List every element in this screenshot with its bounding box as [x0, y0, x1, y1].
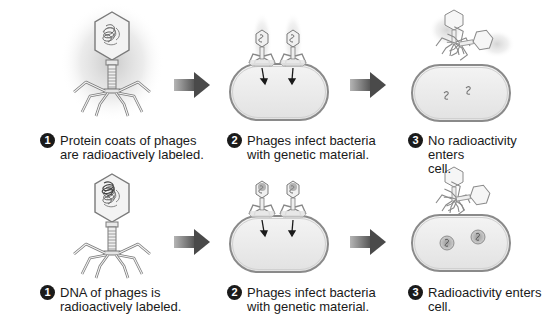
row-1-protein-labeling — [60, 2, 515, 122]
caption-row2-step2: 2 Phages infect bacteria with genetic ma… — [227, 286, 376, 314]
caption-line: with genetic material. — [247, 300, 376, 314]
arrow-icon — [350, 72, 386, 98]
caption-line: cell. — [428, 300, 541, 314]
caption-line: radioactively labeled. — [60, 300, 181, 314]
result-bacterium — [412, 10, 515, 121]
row-2-dna-labeling — [74, 167, 510, 278]
caption-line: with genetic material. — [247, 148, 376, 162]
step-number-badge: 3 — [408, 133, 423, 148]
caption-row1-step3: 3 No radioactivity enters cell. — [408, 134, 554, 176]
infection-bacterium — [230, 12, 328, 120]
step-number-badge: 1 — [40, 285, 55, 300]
caption-row2-step1: 1 DNA of phages is radioactively labeled… — [40, 286, 181, 314]
step-number-badge: 3 — [408, 285, 423, 300]
infection-bacterium — [230, 181, 328, 272]
radioactive-protein-phage — [60, 2, 164, 122]
step-number-badge: 2 — [227, 285, 242, 300]
caption-line: Phages infect bacteria — [247, 286, 376, 300]
step-number-badge: 1 — [40, 133, 55, 148]
caption-row2-step3: 3 Radioactivity enters cell. — [408, 286, 541, 314]
arrow-icon — [174, 229, 210, 255]
caption-line: Radioactivity enters — [428, 286, 541, 300]
caption-line: are radioactively labeled. — [60, 148, 204, 162]
result-bacterium — [412, 167, 510, 271]
caption-line: No radioactivity enters — [428, 134, 554, 162]
step-number-badge: 2 — [227, 133, 242, 148]
caption-line: cell. — [428, 162, 554, 176]
radioactive-dna-phage — [74, 174, 150, 278]
caption-row1-step2: 2 Phages infect bacteria with genetic ma… — [227, 134, 376, 162]
arrow-icon — [174, 72, 210, 98]
caption-line: Protein coats of phages — [60, 134, 204, 148]
caption-row1-step1: 1 Protein coats of phages are radioactiv… — [40, 134, 204, 162]
caption-line: DNA of phages is — [60, 286, 181, 300]
caption-line: Phages infect bacteria — [247, 134, 376, 148]
arrow-icon — [350, 229, 386, 255]
